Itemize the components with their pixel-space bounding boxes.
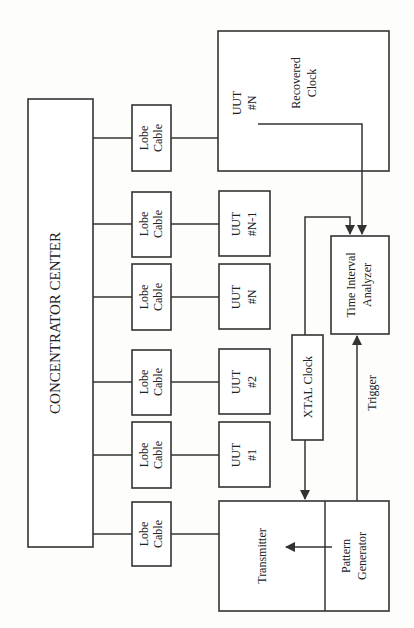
svg-text:Cable: Cable <box>151 520 165 548</box>
svg-text:Cable: Cable <box>151 124 165 152</box>
svg-text:UUT: UUT <box>230 90 244 115</box>
pattern-generator-label: Pattern <box>339 539 353 573</box>
svg-text:#N: #N <box>245 289 259 304</box>
lobe-cable-1: Lobe Cable <box>132 192 171 257</box>
svg-text:Lobe: Lobe <box>137 126 151 151</box>
recovered-clock-label: Recovered <box>289 57 303 108</box>
measured-uut-block: UUT #N Recovered Clock <box>218 31 389 171</box>
svg-text:Lobe: Lobe <box>137 443 151 468</box>
svg-text:Lobe: Lobe <box>137 212 151 237</box>
svg-text:#N-1: #N-1 <box>245 212 259 237</box>
svg-text:Cable: Cable <box>151 283 165 311</box>
svg-text:#1: #1 <box>245 449 259 461</box>
svg-text:Cable: Cable <box>151 368 165 396</box>
svg-text:UUT: UUT <box>229 369 243 394</box>
time-interval-analyzer-block: Time Interval Analyzer <box>331 236 389 334</box>
svg-text:UUT: UUT <box>229 211 243 236</box>
svg-text:UUT: UUT <box>229 284 243 309</box>
concentrator-label: CONCENTRATOR CENTER <box>47 232 63 414</box>
svg-text:XTAL Clock: XTAL Clock <box>301 356 315 418</box>
uut-2: UUT #2 <box>219 349 270 414</box>
transmitter-block: Transmitter Pattern Generator <box>219 501 389 611</box>
svg-text:Lobe: Lobe <box>137 285 151 310</box>
lobe-cable-2: Lobe Cable <box>132 264 171 330</box>
lobe-cable-3: Lobe Cable <box>132 350 171 415</box>
uut-n-minus-1: UUT #N-1 <box>219 191 270 256</box>
xtal-clock-block: XTAL Clock <box>292 335 323 440</box>
transmitter-label: Transmitter <box>255 528 269 584</box>
svg-text:#N: #N <box>245 95 259 110</box>
svg-text:Cable: Cable <box>151 210 165 238</box>
svg-text:Cable: Cable <box>151 441 165 469</box>
svg-text:Clock: Clock <box>305 69 319 98</box>
svg-text:#2: #2 <box>245 376 259 388</box>
diagram-canvas: CONCENTRATOR CENTER Lobe Cable Lobe Cabl… <box>0 0 414 628</box>
svg-text:Lobe: Lobe <box>137 370 151 395</box>
trigger-label: Trigger <box>365 375 379 411</box>
svg-text:Time Interval: Time Interval <box>344 252 358 318</box>
uut-n: UUT #N <box>219 264 270 329</box>
lobe-cable-4: Lobe Cable <box>132 422 171 488</box>
concentrator-stubs <box>93 138 132 534</box>
svg-text:Generator: Generator <box>355 532 369 580</box>
uut-1: UUT #1 <box>219 422 270 487</box>
lobe-to-uut-wires <box>171 138 219 534</box>
svg-text:UUT: UUT <box>229 442 243 467</box>
svg-text:Lobe: Lobe <box>137 522 151 547</box>
lobe-cable-5: Lobe Cable <box>132 502 171 566</box>
concentrator-center-block: CONCENTRATOR CENTER <box>28 99 93 547</box>
lobe-cable-0: Lobe Cable <box>132 105 171 171</box>
svg-text:Analyzer: Analyzer <box>360 263 374 307</box>
